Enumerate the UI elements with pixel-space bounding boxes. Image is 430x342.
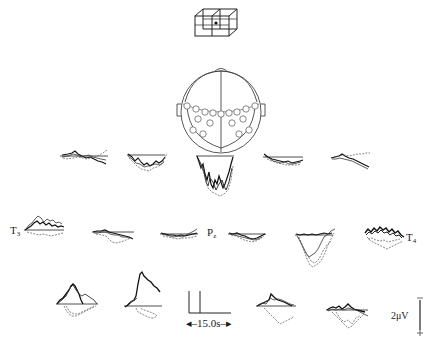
electrode-label-t4: T4 — [406, 232, 416, 247]
trace-t4 — [364, 223, 406, 257]
trace-row1-site1 — [60, 148, 110, 172]
electrode-head-map — [173, 66, 269, 154]
trace-row1-site4 — [263, 153, 305, 171]
arrow-right-icon: –▸ — [221, 317, 232, 329]
arrow-left-icon: ◂– — [186, 317, 197, 329]
trace-pz — [228, 229, 268, 249]
electrode-label-t3: T3 — [10, 225, 20, 240]
trace-row2-site3 — [160, 225, 200, 245]
electrode-label-pz: Pz — [207, 227, 216, 242]
voltage-scale-label: 2μV — [391, 311, 409, 321]
voltage-scale-bar — [414, 296, 426, 336]
3d-grid-cube-icon — [194, 8, 238, 38]
trace-t3 — [24, 213, 66, 241]
trace-row3-site4 — [256, 290, 298, 332]
trace-row3-site1 — [56, 280, 100, 326]
trace-row2-site5 — [295, 227, 337, 273]
trace-row3-site5 — [326, 300, 370, 340]
trace-row1-site5 — [330, 150, 372, 172]
time-scale-label: ◂–15.0s–▸ — [186, 318, 232, 329]
trace-row2-site2 — [92, 226, 136, 248]
trace-row1-center — [196, 154, 236, 200]
trace-row1-site2 — [127, 152, 169, 178]
trace-row3-site2 — [124, 270, 166, 324]
time-scale-bar — [188, 291, 232, 315]
